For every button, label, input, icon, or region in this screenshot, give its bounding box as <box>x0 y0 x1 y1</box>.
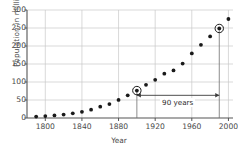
plot-svg <box>0 0 238 156</box>
population-scatter-chart: Population in millions 05010015020025030… <box>0 0 238 156</box>
x-axis-tick-label: 1920 <box>135 123 175 131</box>
x-axis-tick-label: 1880 <box>99 123 139 131</box>
plot-area <box>0 0 238 156</box>
x-axis-tick-label: 1960 <box>172 123 212 131</box>
x-axis-tick-label: 1800 <box>25 123 65 131</box>
x-axis-title: Year <box>0 136 238 145</box>
x-axis-tick-label: 2000 <box>208 123 238 131</box>
x-axis-tick-label: 1840 <box>62 123 102 131</box>
span-annotation-label: 90 years <box>160 98 195 107</box>
